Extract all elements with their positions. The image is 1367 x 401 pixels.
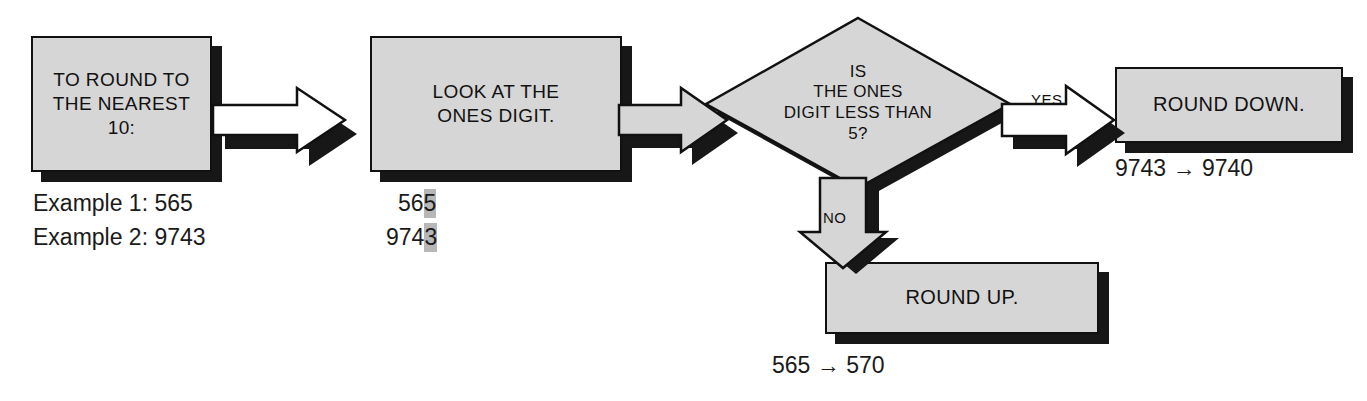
ones-digit-1-highlight: 5: [424, 189, 437, 218]
caption-ones-digit-1: 565: [398, 190, 436, 217]
edge-label-no: NO: [823, 209, 847, 226]
ones-digit-1-prefix: 56: [398, 190, 424, 216]
arrow-start-to-look: [205, 72, 377, 170]
flowchart-canvas: TO ROUND TO THE NEAREST 10: LOOK AT THE …: [0, 0, 1367, 401]
caption-example-1: Example 1: 565: [33, 190, 193, 217]
ones-digit-2-highlight: 3: [424, 223, 437, 252]
caption-example-2: Example 2: 9743: [33, 224, 206, 251]
arrow-decision-to-round-up: [790, 176, 920, 272]
caption-ones-digit-2: 9743: [386, 224, 437, 251]
caption-result-round-down: 9743 → 9740: [1115, 155, 1253, 182]
node-start-line-1: TO ROUND TO: [53, 69, 189, 90]
arrow-decision-to-round-down: [1000, 72, 1132, 170]
node-look-at-ones-digit: LOOK AT THE ONES DIGIT.: [370, 36, 622, 172]
node-round-up-label: ROUND UP.: [899, 285, 1024, 311]
node-round-down: ROUND DOWN.: [1115, 67, 1343, 143]
node-round-up: ROUND UP.: [825, 262, 1099, 334]
edge-label-yes: YES: [1031, 91, 1063, 108]
caption-result-round-up: 565 → 570: [772, 352, 885, 379]
node-decision: IS THE ONES DIGIT LESS THAN 5?: [700, 12, 1016, 194]
ones-digit-2-prefix: 974: [386, 224, 424, 250]
node-start-line-2: THE NEAREST 10:: [53, 93, 190, 138]
arrow-look-to-decision: [615, 72, 745, 170]
node-look-line-2: ONES DIGIT.: [437, 105, 554, 126]
node-look-line-1: LOOK AT THE: [433, 81, 560, 102]
node-start: TO ROUND TO THE NEAREST 10:: [31, 36, 212, 172]
node-round-down-label: ROUND DOWN.: [1147, 92, 1311, 118]
